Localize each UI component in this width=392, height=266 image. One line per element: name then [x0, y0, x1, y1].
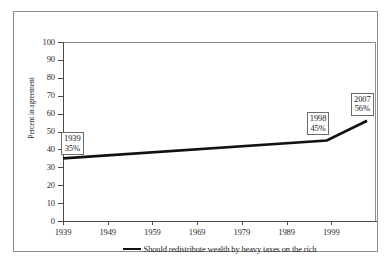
- y-axis-tick-label: 80: [28, 73, 55, 82]
- y-axis-tick-label: 0: [28, 217, 55, 226]
- y-axis-tick: [58, 114, 63, 115]
- x-axis-tick: [152, 221, 153, 225]
- legend-line-swatch: [123, 248, 141, 251]
- y-axis-tick-label: 50: [28, 127, 55, 136]
- x-axis-tick-label: 1979: [222, 228, 262, 237]
- legend: Should redistribute wealth by heavy taxe…: [63, 244, 376, 254]
- y-axis-tick: [58, 42, 63, 43]
- x-axis-line: [63, 221, 377, 222]
- x-axis-tick: [197, 221, 198, 225]
- y-axis-tick-label: 60: [28, 109, 55, 118]
- x-axis-tick: [331, 221, 332, 225]
- y-axis-tick-label: 10: [28, 199, 55, 208]
- x-axis-tick-label: 1999: [311, 228, 351, 237]
- y-axis-tick-label: 90: [28, 55, 55, 64]
- x-axis-tick: [108, 221, 109, 225]
- x-axis-tick: [242, 221, 243, 225]
- data-point-callout: 200756%: [351, 93, 374, 116]
- y-axis-tick: [58, 60, 63, 61]
- callout-percent: 56%: [354, 104, 371, 114]
- y-axis-tick: [58, 96, 63, 97]
- legend-item-label: Should redistribute wealth by heavy taxe…: [144, 244, 317, 254]
- x-axis-tick: [63, 221, 64, 225]
- y-axis-tick: [58, 78, 63, 79]
- callout-percent: 35%: [64, 144, 81, 154]
- y-axis-tick: [58, 167, 63, 168]
- y-axis-tick-label: 30: [28, 163, 55, 172]
- x-axis-tick: [287, 221, 288, 225]
- y-axis-tick: [58, 185, 63, 186]
- x-axis-tick-label: 1939: [43, 228, 83, 237]
- x-axis-tick-label: 1949: [88, 228, 128, 237]
- y-axis-tick-label: 40: [28, 145, 55, 154]
- x-axis-tick-label: 1969: [177, 228, 217, 237]
- y-axis-tick-label: 20: [28, 181, 55, 190]
- data-point-callout: 193935%: [61, 132, 84, 155]
- y-axis-tick-label: 70: [28, 91, 55, 100]
- x-axis-tick-label: 1989: [267, 228, 307, 237]
- y-axis-tick: [58, 203, 63, 204]
- figure-frame: Percent in agreement 0102030405060708090…: [13, 11, 378, 252]
- data-point-callout: 199845%: [307, 112, 330, 135]
- y-axis-tick-label: 100: [28, 38, 55, 47]
- callout-percent: 45%: [310, 124, 327, 134]
- x-axis-tick-label: 1959: [132, 228, 172, 237]
